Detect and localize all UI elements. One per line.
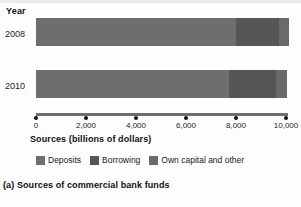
bar-segment-deposits-2008 xyxy=(36,18,236,46)
bar-segment-borrowing-2010 xyxy=(229,70,277,98)
stacked-bar-2010 xyxy=(36,70,287,98)
legend-label: Deposits xyxy=(48,155,81,165)
tick-dot-4000 xyxy=(134,116,138,120)
stacked-bar-2008 xyxy=(36,18,289,46)
chart-figure: Year 2008 2010 02,0004,0006,0008,00010,0… xyxy=(0,0,301,207)
bar-segment-borrowing-2008 xyxy=(236,18,279,46)
tick-label-0: 0 xyxy=(34,121,38,130)
tick-dot-8000 xyxy=(234,116,238,120)
legend-swatch-icon xyxy=(36,156,45,165)
tick-dot-0 xyxy=(34,116,38,120)
legend-item: Borrowing xyxy=(90,155,140,165)
legend-label: Borrowing xyxy=(102,155,140,165)
x-axis-line xyxy=(36,113,288,116)
bar-segment-own-capital-and-other-2010 xyxy=(276,70,287,98)
tick-label-4000: 4,000 xyxy=(126,121,146,130)
legend-swatch-icon xyxy=(90,156,99,165)
tick-label-2000: 2,000 xyxy=(76,121,96,130)
bar-segment-deposits-2010 xyxy=(36,70,229,98)
plot-area: 2008 2010 02,0004,0006,0008,00010,000 xyxy=(0,0,301,207)
tick-dot-2000 xyxy=(84,116,88,120)
figure-caption: (a) Sources of commercial bank funds xyxy=(3,180,170,190)
legend-swatch-icon xyxy=(149,156,158,165)
legend-item: Deposits xyxy=(36,155,81,165)
legend-label: Own capital and other xyxy=(161,155,244,165)
tick-dot-10000 xyxy=(284,116,288,120)
category-label-2010: 2010 xyxy=(5,81,33,91)
category-label-2008: 2008 xyxy=(5,29,33,39)
tick-label-6000: 6,000 xyxy=(176,121,196,130)
x-axis-title: Sources (billions of dollars) xyxy=(30,134,151,144)
bar-segment-own-capital-and-other-2008 xyxy=(279,18,289,46)
tick-label-8000: 8,000 xyxy=(226,121,246,130)
legend-item: Own capital and other xyxy=(149,155,244,165)
chart-legend: DepositsBorrowingOwn capital and other xyxy=(36,155,249,165)
tick-label-10000: 10,000 xyxy=(274,121,298,130)
tick-dot-6000 xyxy=(184,116,188,120)
